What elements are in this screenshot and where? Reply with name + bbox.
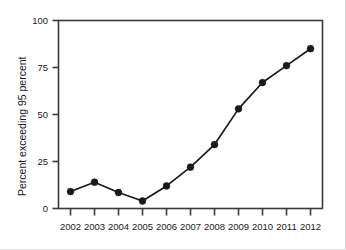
data-point-2011 (283, 62, 290, 69)
x-tick-label-2006: 2006 (156, 221, 177, 232)
chart-figure: 100 75 50 25 0 Percent exceeding 95 perc… (0, 0, 346, 250)
x-tick-label-2010: 2010 (252, 221, 273, 232)
x-axis-ticks (71, 209, 311, 216)
y-axis-title: Percent exceeding 95 percent (16, 56, 28, 196)
x-tick-label-2002: 2002 (60, 221, 81, 232)
x-tick-label-2011: 2011 (276, 221, 296, 232)
x-tick-label-2004: 2004 (108, 221, 129, 232)
x-tick-label-2012: 2012 (300, 221, 321, 232)
y-axis-tick-labels: 100 75 50 25 0 (32, 15, 48, 214)
x-tick-label-2005: 2005 (132, 221, 153, 232)
y-tick-label-50: 50 (37, 109, 48, 120)
y-tick-label-100: 100 (32, 15, 48, 26)
y-tick-label-75: 75 (37, 62, 48, 73)
data-point-2002 (67, 188, 74, 195)
data-point-2007 (187, 164, 194, 171)
data-point-2008 (211, 141, 218, 148)
x-axis-tick-labels: 2002 2003 2004 2005 2006 2007 2008 2009 … (60, 221, 321, 232)
x-tick-label-2003: 2003 (84, 221, 105, 232)
y-tick-label-0: 0 (43, 203, 48, 214)
y-axis-ticks (53, 21, 59, 209)
data-point-2004 (115, 189, 122, 196)
data-point-2010 (259, 79, 266, 86)
x-tick-label-2007: 2007 (180, 221, 201, 232)
y-tick-label-25: 25 (37, 156, 48, 167)
x-tick-label-2008: 2008 (204, 221, 225, 232)
line-chart: 100 75 50 25 0 Percent exceeding 95 perc… (0, 0, 346, 250)
data-point-2009 (235, 105, 242, 112)
data-point-2012 (307, 45, 314, 52)
x-tick-label-2009: 2009 (228, 221, 249, 232)
plot-area-frame (59, 21, 323, 209)
data-point-2003 (91, 179, 98, 186)
data-point-2006 (163, 183, 170, 190)
data-point-2005 (139, 198, 146, 205)
